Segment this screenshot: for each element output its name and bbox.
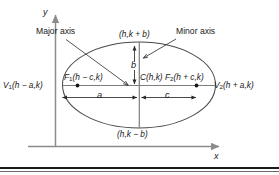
focus-left-label: F1(h − c,k) <box>64 73 103 83</box>
focus-left-dot <box>76 84 80 88</box>
vertex-right-label: V2(h + a,k) <box>214 81 254 91</box>
focus-right-dot <box>195 84 199 88</box>
vertex-right-coords: (h + a,k) <box>223 80 254 90</box>
dimension-b-label: b <box>131 61 136 70</box>
co-vertex-bottom-label: (h,k − b) <box>117 130 148 138</box>
major-axis-label: Major axis <box>36 27 75 36</box>
vertex-left-coords: (h − a,k) <box>12 80 43 90</box>
focus-right-label: F2(h + c,k) <box>165 73 204 83</box>
bottom-rule-thick <box>0 167 279 169</box>
co-vertex-top-label: (h,k + b) <box>119 30 150 38</box>
vertex-left-label: V1(h − a,k) <box>3 81 43 91</box>
dimension-a-label: a <box>97 91 102 100</box>
minor-axis-label: Minor axis <box>176 27 215 36</box>
bottom-rule-thin <box>0 171 279 172</box>
x-axis-label: x <box>214 152 219 161</box>
dimension-c-label: c <box>165 91 170 100</box>
focus-right-coords: (h + c,k) <box>174 72 204 82</box>
y-axis-label: y <box>43 8 48 17</box>
center-label: C(h,k) <box>140 73 163 81</box>
focus-left-coords: (h − c,k) <box>73 72 103 82</box>
center-coords: (h,k) <box>146 72 163 82</box>
ellipse-figure: Major axis Minor axis (h,k + b) (h,k − b… <box>0 0 279 175</box>
